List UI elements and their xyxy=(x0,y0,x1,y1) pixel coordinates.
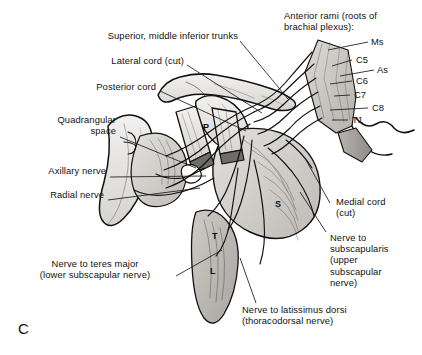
label-posterior-cord: Posterior cord xyxy=(16,81,156,92)
chest-wall-contour xyxy=(356,118,414,133)
label-root-c5: C5 xyxy=(356,55,368,65)
label-root-as: As xyxy=(377,65,388,75)
label-medial-cord-cut: Medial cord (cut) xyxy=(336,196,420,218)
label-root-c8: C8 xyxy=(372,103,384,113)
marker-subscapularis-s: S xyxy=(275,199,281,209)
marker-posterior-cord-p: P xyxy=(203,122,209,132)
label-nerve-to-subscapularis: Nerve to subscapularis (upper subscapula… xyxy=(330,232,418,288)
rib-cut xyxy=(338,128,372,162)
label-root-ms: Ms xyxy=(371,37,384,47)
label-nerve-to-teres-major: Nerve to teres major (lower subscapular … xyxy=(16,258,174,280)
label-nerve-to-latissimus-dorsi: Nerve to latissimus dorsi (thoracodorsal… xyxy=(242,304,402,326)
label-superior-middle-inferior-trunks: Superior, middle inferior trunks xyxy=(60,30,238,41)
label-anterior-rami-heading: Anterior rami (roots of brachial plexus)… xyxy=(284,10,418,32)
label-root-c6: C6 xyxy=(356,76,368,86)
label-root-c7: C7 xyxy=(354,90,366,100)
label-radial-nerve: Radial nerve xyxy=(10,189,104,200)
quadrangular-space-opening xyxy=(181,165,201,183)
label-lateral-cord-cut: Lateral cord (cut) xyxy=(40,55,184,66)
panel-letter: C xyxy=(18,320,29,337)
leader-latissimus-dorsi xyxy=(240,258,256,303)
marker-latissimus-l: L xyxy=(210,266,216,276)
marker-teres-major-t: T xyxy=(212,231,218,241)
label-quadrangular-space: Quadrangular space xyxy=(16,114,116,136)
scalene-region xyxy=(305,40,356,133)
label-axillary-nerve: Axillary nerve xyxy=(10,165,106,176)
label-root-t1: T1 xyxy=(352,115,363,125)
